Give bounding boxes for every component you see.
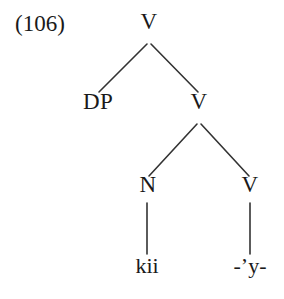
tree-edge <box>151 44 198 92</box>
tree-node-terminal-y: -’y- <box>234 255 267 277</box>
tree-node-inner-v: V <box>191 90 208 113</box>
tree-node-root-v: V <box>141 10 158 33</box>
tree-node-leaf-v: V <box>242 173 259 196</box>
tree-edge <box>99 44 147 92</box>
tree-node-terminal-kii: kii <box>135 255 158 277</box>
tree-node-n: N <box>140 173 157 196</box>
tree-node-dp: DP <box>83 90 113 113</box>
syntax-tree-figure: (106) VDPVNVkii-’y- <box>0 0 284 299</box>
tree-edge <box>201 124 249 176</box>
tree-edge <box>149 124 197 176</box>
